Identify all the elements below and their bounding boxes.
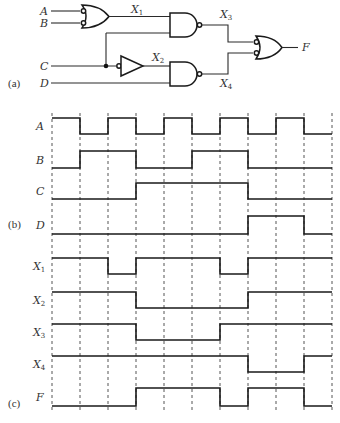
part-label-a: (a) [8, 77, 21, 90]
waveform-label-b: B [35, 154, 44, 167]
waveform-label-c: C [36, 185, 45, 198]
signal-label-x3: X3 [219, 8, 232, 22]
inversion-bubble-icon [254, 51, 258, 55]
gate-nand-1 [170, 13, 202, 37]
logic-circuit-figure: A B C D (a) X1 X2 [0, 0, 340, 423]
inversion-bubble-icon [197, 23, 201, 27]
waveform-labels: ABCDX1X2X3X4F [32, 120, 46, 404]
wire-x4 [202, 53, 253, 74]
waveform-label-d: D [35, 219, 45, 232]
input-label-d: D [39, 77, 49, 90]
waveform-label-x3: X3 [32, 326, 45, 340]
inversion-bubble-icon [254, 40, 258, 44]
waveform-label-x1: X1 [32, 260, 45, 274]
timing-diagram: ABCDX1X2X3X4F (b) (c) [8, 113, 332, 410]
waveforms [52, 118, 332, 406]
waveform-label-f: F [35, 391, 44, 404]
waveform-d [52, 216, 332, 234]
gate-inverter [117, 56, 143, 76]
gate-or-inverted-inputs-2 [254, 36, 282, 59]
junction-dot [104, 64, 109, 69]
gate-nand-2 [170, 62, 202, 86]
inversion-bubble-icon [197, 72, 201, 76]
waveform-a [52, 118, 332, 134]
part-label-b: (b) [8, 218, 21, 231]
part-label-c: (c) [8, 397, 21, 410]
waveform-b [52, 151, 332, 168]
input-label-c: C [40, 60, 49, 73]
signal-label-x4: X4 [219, 77, 233, 91]
inversion-bubble-icon [81, 21, 85, 25]
waveform-x4 [52, 356, 332, 372]
signal-label-x2: X2 [151, 51, 164, 65]
circuit-diagram: A B C D (a) X1 X2 [8, 3, 310, 91]
output-label-f: F [301, 41, 310, 54]
input-label-b: B [39, 17, 48, 30]
signal-label-x1: X1 [130, 3, 143, 17]
waveform-label-x4: X4 [32, 358, 46, 372]
wire-x3 [202, 25, 253, 42]
inversion-bubble-icon [81, 9, 85, 13]
waveform-label-x2: X2 [32, 294, 45, 308]
gate-or-inverted-inputs-1 [81, 5, 109, 28]
waveform-label-a: A [35, 120, 44, 133]
